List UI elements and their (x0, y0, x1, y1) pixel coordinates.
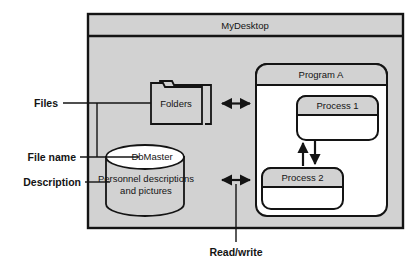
program-a-window[interactable]: Program A Process 1 Process 2 (256, 64, 387, 216)
mydesktop-diagram: MyDesktop Folders DbMaster Personnel des… (0, 0, 417, 269)
process-1-title: Process 1 (316, 100, 358, 111)
callout-files-label: Files (34, 97, 58, 109)
folders-label: Folders (160, 98, 192, 109)
program-a-title: Program A (299, 69, 345, 80)
callout-file-name-label: File name (28, 151, 77, 163)
callout-description-label: Description (23, 176, 81, 188)
callout-read-write-label: Read/write (209, 246, 262, 258)
process-2-window[interactable]: Process 2 (262, 168, 343, 209)
process-1-window[interactable]: Process 1 (297, 96, 378, 140)
diagram-canvas: MyDesktop Folders DbMaster Personnel des… (0, 0, 417, 269)
folders-object[interactable]: Folders (151, 81, 211, 124)
database-object[interactable]: DbMaster Personnel descriptions and pict… (98, 145, 194, 216)
mydesktop-title: MyDesktop (221, 20, 269, 31)
database-body-label-line1: Personnel descriptions (98, 173, 194, 184)
process-2-title: Process 2 (281, 172, 323, 183)
database-body-label-line2: and pictures (120, 185, 172, 196)
